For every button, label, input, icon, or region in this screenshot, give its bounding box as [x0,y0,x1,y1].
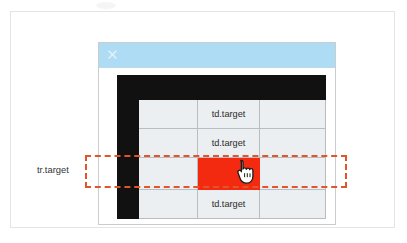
table-cell[interactable] [118,100,139,129]
close-icon[interactable]: ✕ [105,47,120,62]
table-cell[interactable] [139,100,198,129]
table-row: td.target [118,190,326,219]
table-cell[interactable] [118,76,139,100]
table-cell[interactable] [260,190,326,219]
dialog-titlebar[interactable]: ✕ [99,43,335,68]
table-body: td.targettd.targettd.target [118,76,326,219]
table-row [118,158,326,190]
tr-target-label: tr.target [37,164,69,175]
table-cell[interactable] [260,129,326,158]
data-table: td.targettd.targettd.target [117,75,326,219]
table-row: td.target [118,100,326,129]
table-cell-target-active[interactable] [198,158,260,190]
table-cell[interactable] [139,76,198,100]
table-cell[interactable] [260,100,326,129]
dialog-window: ✕ td.targettd.targettd.target [98,42,336,225]
table-cell-target[interactable]: td.target [198,190,260,219]
table-cell[interactable] [139,158,198,190]
outer-frame: ✕ td.targettd.targettd.target tr.target [10,11,395,228]
table-cell[interactable] [260,158,326,190]
table-cell[interactable] [139,129,198,158]
top-artifact [96,2,116,9]
table-cell[interactable] [118,158,139,190]
table-header-row [118,76,326,100]
table-cell[interactable] [118,190,139,219]
table-row: td.target [118,129,326,158]
table-cell[interactable] [198,76,260,100]
table-cell-target[interactable]: td.target [198,100,260,129]
table-cell[interactable] [118,129,139,158]
table-cell-target[interactable]: td.target [198,129,260,158]
table-cell[interactable] [139,190,198,219]
table-cell[interactable] [260,76,326,100]
